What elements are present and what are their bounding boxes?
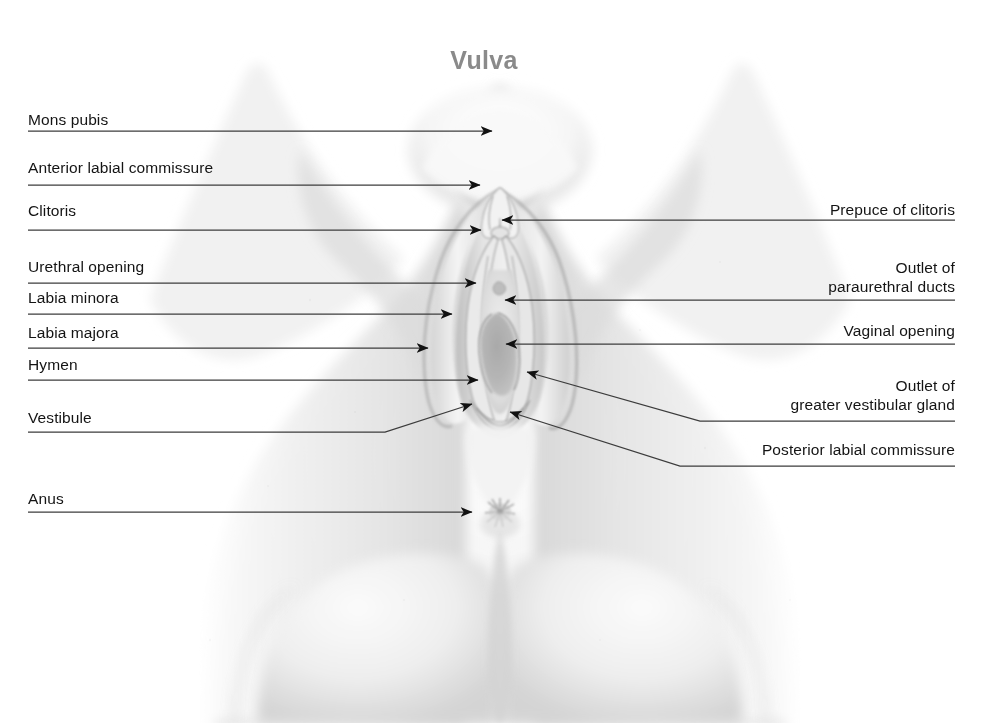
label-hymen: Hymen	[28, 355, 78, 374]
label-line: greater vestibular gland	[791, 395, 955, 414]
label-posterior-labial-commissure: Posterior labial commissure	[762, 440, 955, 459]
label-labia-minora: Labia minora	[28, 288, 119, 307]
label-line: Vaginal opening	[843, 321, 955, 340]
leader-line	[28, 404, 472, 432]
leader-lines	[0, 0, 982, 723]
label-mons-pubis: Mons pubis	[28, 110, 108, 129]
label-outlet-of-paraurethral-ducts: Outlet ofparaurethral ducts	[828, 258, 955, 296]
label-vaginal-opening: Vaginal opening	[843, 321, 955, 340]
label-line: Outlet of	[828, 258, 955, 277]
label-vestibule: Vestibule	[28, 408, 92, 427]
label-anterior-labial-commissure: Anterior labial commissure	[28, 158, 213, 177]
label-anus: Anus	[28, 489, 64, 508]
label-outlet-of-greater-vestibular-gland: Outlet ofgreater vestibular gland	[791, 376, 955, 414]
figure-title: Vulva	[0, 46, 982, 75]
label-clitoris: Clitoris	[28, 201, 76, 220]
label-prepuce-of-clitoris: Prepuce of clitoris	[830, 200, 955, 219]
figure-title-text: Vulva	[450, 46, 517, 74]
label-line: Prepuce of clitoris	[830, 200, 955, 219]
label-line: Posterior labial commissure	[762, 440, 955, 459]
anatomy-figure: Vulva Mons pubisAnterior labial commissu…	[0, 0, 982, 723]
label-urethral-opening: Urethral opening	[28, 257, 144, 276]
label-line: paraurethral ducts	[828, 277, 955, 296]
label-labia-majora: Labia majora	[28, 323, 119, 342]
label-line: Outlet of	[791, 376, 955, 395]
